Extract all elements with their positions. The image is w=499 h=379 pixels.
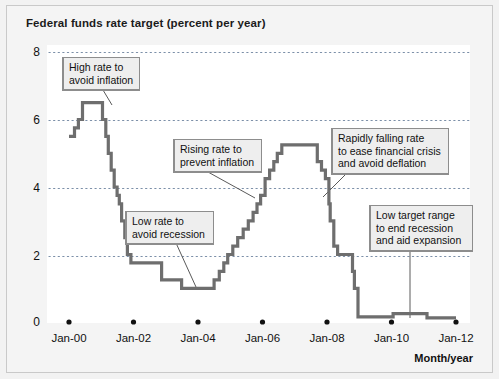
y-tick-label-4: 4 [22, 181, 40, 195]
annotation-low-target-range: Low target range to end recession and ai… [369, 205, 473, 252]
annotation-rapidly-falling: Rapidly falling rate to ease financial c… [331, 128, 449, 175]
x-tick-label-jan-12: Jan-12 [421, 332, 491, 344]
y-tick-label-6: 6 [22, 113, 40, 127]
y-tick-label-8: 8 [22, 45, 40, 59]
y-tick-label-2: 2 [22, 249, 40, 263]
x-tick-label-jan-02: Jan-02 [99, 332, 169, 344]
x-tick-label-jan-00: Jan-00 [34, 332, 104, 344]
annotation-high-rate: High rate to avoid inflation [62, 57, 140, 91]
y-tick-label-0: 0 [22, 315, 40, 329]
x-tick-label-jan-08: Jan-08 [292, 332, 362, 344]
x-tick-label-jan-10: Jan-10 [357, 332, 427, 344]
x-axis-caption: Month/year [414, 352, 473, 364]
annotation-rising-rate: Rising rate to prevent inflation [173, 139, 262, 173]
annotation-low-rate: Low rate to avoid recession [125, 211, 214, 245]
x-tick-label-jan-06: Jan-06 [228, 332, 298, 344]
figure-container: Federal funds rate target (percent per y… [0, 0, 499, 379]
x-tick-label-jan-04: Jan-04 [163, 332, 233, 344]
